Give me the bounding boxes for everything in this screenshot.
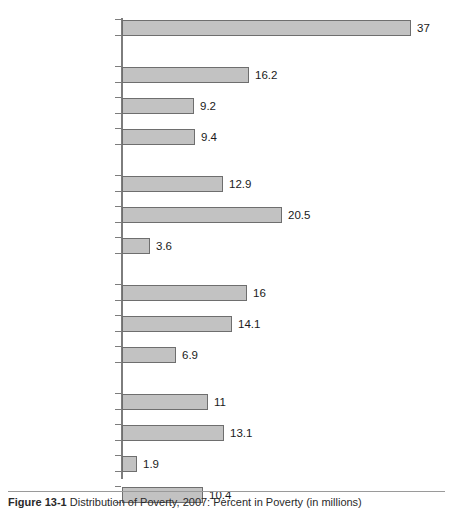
bar	[122, 20, 411, 36]
axis-tick	[115, 331, 121, 332]
axis-tick	[115, 113, 121, 114]
bar	[122, 394, 208, 410]
axis-tick	[115, 393, 121, 394]
bar-value-label: 14.1	[238, 318, 260, 330]
axis-tick	[115, 82, 121, 83]
bar-value-label: 3.6	[156, 240, 172, 252]
bar-value-label: 6.9	[182, 349, 198, 361]
bar	[122, 238, 150, 254]
bar-value-label: 13.1	[230, 427, 252, 439]
bar-value-label: 9.2	[200, 100, 216, 112]
bar	[122, 425, 224, 441]
bar	[122, 347, 176, 363]
figure-caption: Figure 13-1 Distribution of Poverty, 200…	[8, 496, 445, 509]
axis-tick	[115, 471, 121, 472]
axis-tick	[115, 237, 121, 238]
figure-caption-text: Distribution of Poverty, 2007: Percent i…	[70, 496, 362, 508]
axis-tick	[115, 409, 121, 410]
axis-tick	[115, 206, 121, 207]
bar-value-label: 16.2	[255, 69, 277, 81]
axis-tick	[115, 284, 121, 285]
axis-tick	[115, 191, 121, 192]
axis-tick	[115, 175, 121, 176]
axis-tick	[115, 455, 121, 456]
axis-tick	[115, 97, 121, 98]
axis-tick	[115, 35, 121, 36]
axis-tick	[115, 300, 121, 301]
bar	[122, 67, 249, 83]
figure-caption-number: Figure 13-1	[8, 496, 67, 508]
caption-divider-rule	[8, 491, 445, 492]
axis-tick	[115, 440, 121, 441]
bar-value-label: 1.9	[143, 458, 159, 470]
axis-tick	[115, 66, 121, 67]
axis-tick	[115, 128, 121, 129]
axis-tick	[115, 144, 121, 145]
bar-value-label: 9.4	[201, 131, 217, 143]
axis-tick	[115, 253, 121, 254]
bar-value-label: 12.9	[229, 178, 251, 190]
axis-tick	[115, 424, 121, 425]
bar	[122, 456, 137, 472]
bar	[122, 98, 194, 114]
axis-tick	[115, 222, 121, 223]
axis-tick	[115, 315, 121, 316]
poverty-distribution-bar-chart: All37White16.2Black9.2Hispanic9.4Under 1…	[0, 0, 453, 491]
bar	[122, 129, 195, 145]
axis-tick	[115, 19, 121, 20]
axis-tick	[115, 486, 121, 487]
bar-value-label: 16	[253, 287, 266, 299]
bar-value-label: 37	[417, 22, 430, 34]
bar	[122, 285, 247, 301]
axis-tick	[115, 362, 121, 363]
bar-value-label: 20.5	[288, 209, 310, 221]
axis-tick	[115, 346, 121, 347]
bar	[122, 176, 223, 192]
bar	[122, 316, 232, 332]
bar	[122, 207, 282, 223]
bar-value-label: 11	[214, 396, 226, 408]
